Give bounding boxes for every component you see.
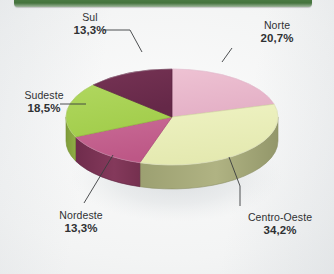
slice-label-norte-value: 20,7%	[236, 32, 318, 44]
slice-label-sul-name: Sul	[52, 12, 128, 23]
slice-label-nordeste-value: 13,3%	[38, 222, 124, 234]
slice-label-norte: Norte 20,7%	[236, 20, 318, 45]
slice-label-sul-value: 13,3%	[52, 24, 128, 36]
slice-label-sul: Sul 13,3%	[52, 12, 128, 37]
slice-label-sudeste-name: Sudeste	[8, 90, 80, 101]
slice-label-nordeste-name: Nordeste	[38, 210, 124, 221]
slice-label-sudeste-value: 18,5%	[8, 102, 80, 114]
slice-label-nordeste: Nordeste 13,3%	[38, 210, 124, 235]
slice-label-centro-oeste: Centro-Oeste 34,2%	[232, 212, 328, 237]
slice-label-centro-oeste-value: 34,2%	[232, 224, 328, 236]
slice-label-centro-oeste-name: Centro-Oeste	[232, 212, 328, 223]
slice-label-sudeste: Sudeste 18,5%	[8, 90, 80, 115]
leader-line-norte	[222, 48, 232, 62]
slice-label-norte-name: Norte	[236, 20, 318, 31]
